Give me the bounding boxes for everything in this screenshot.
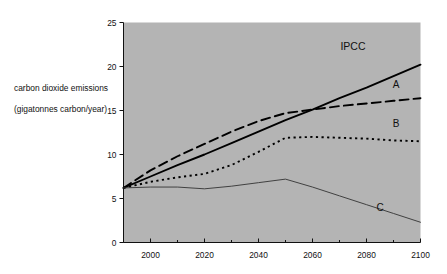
x-tick-label: 2000 xyxy=(141,250,160,260)
x-tick-label: 2080 xyxy=(357,250,376,260)
y-tick-label: 5 xyxy=(112,194,117,204)
series-label-a: A xyxy=(393,79,400,90)
x-tick-label: 2100 xyxy=(411,250,430,260)
x-tick-label: 2020 xyxy=(195,250,214,260)
y-tick-label: 10 xyxy=(107,150,117,160)
line-chart-plot: 0510152025200020202040206020802100 IPCCA… xyxy=(0,0,447,274)
y-tick-label: 20 xyxy=(107,62,117,72)
x-tick-label: 2040 xyxy=(249,250,268,260)
x-tick-label: 2060 xyxy=(303,250,322,260)
y-tick-label: 0 xyxy=(112,238,117,248)
y-axis-label: carbon dioxide emissions (gigatonnes car… xyxy=(14,72,124,125)
y-axis-label-line2: (gigatonnes carbon/year) xyxy=(14,104,124,115)
y-tick-label: 25 xyxy=(107,18,117,28)
y-axis-label-line1: carbon dioxide emissions xyxy=(14,83,124,94)
chart-figure: carbon dioxide emissions (gigatonnes car… xyxy=(0,0,447,274)
series-label-ipcc: IPCC xyxy=(340,40,366,52)
series-label-b: B xyxy=(393,118,400,129)
series-label-c: C xyxy=(376,202,383,213)
